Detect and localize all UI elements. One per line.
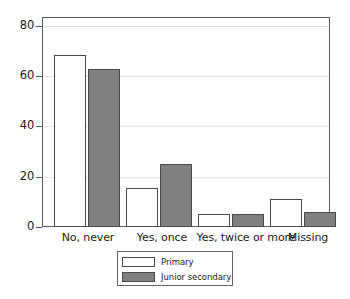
y-tick-label-40: 40: [4, 120, 34, 132]
bar-primary-missing: [270, 199, 302, 227]
bar-secondary-missing: [304, 212, 336, 227]
bars-layer: [42, 17, 330, 227]
legend-swatch-primary-icon: [122, 257, 155, 267]
x-label-yes-once: Yes, once: [122, 231, 202, 244]
legend-label-primary: Primary: [161, 257, 194, 267]
y-tick-label-60: 60: [4, 70, 34, 82]
legend-item-primary: Primary: [122, 256, 194, 267]
x-label-missing: Missing: [268, 231, 348, 244]
y-tick-mark-0: [36, 227, 42, 228]
bar-primary-yes-twice-or-more: [198, 214, 230, 227]
y-tick-label-80: 80: [4, 20, 34, 32]
bar-primary-no-never: [54, 55, 86, 227]
bar-secondary-yes-once: [160, 164, 192, 227]
chart-legend: Primary Junior secondary: [117, 251, 233, 286]
legend-swatch-junior-secondary-icon: [122, 272, 155, 282]
bar-chart: 0 20 40 60 80 No, never Yes, once Yes, t…: [0, 0, 350, 299]
y-tick-label-20: 20: [4, 171, 34, 183]
x-label-no-never: No, never: [48, 231, 128, 244]
y-tick-label-0: 0: [4, 221, 34, 233]
legend-item-junior-secondary: Junior secondary: [122, 271, 231, 282]
bar-primary-yes-once: [126, 188, 158, 227]
legend-label-junior-secondary: Junior secondary: [161, 272, 231, 282]
bar-secondary-yes-twice-or-more: [232, 214, 264, 227]
bar-secondary-no-never: [88, 69, 120, 227]
